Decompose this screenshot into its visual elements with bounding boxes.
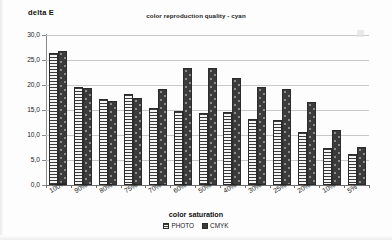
bar-cmyk	[208, 68, 217, 186]
bar-cmyk	[108, 101, 117, 186]
legend-label-photo: PHOTO	[171, 222, 194, 229]
bar-photo	[273, 120, 282, 185]
bar-photo	[248, 119, 257, 186]
bar-chart: delta E color reproduction quality - cya…	[0, 0, 392, 240]
y-axis-tick-label: 5,0	[0, 156, 40, 163]
y-axis-tick-label: 15,0	[0, 106, 40, 113]
y-axis-tick-label: 30,0	[0, 31, 40, 38]
bar-group	[99, 35, 117, 185]
bar-photo	[49, 53, 58, 185]
bar-group	[223, 35, 241, 185]
x-axis-tick-mark	[270, 185, 271, 188]
bar-photo	[323, 148, 332, 186]
bar-group	[298, 35, 316, 185]
bar-cmyk	[282, 89, 291, 186]
plot-area	[46, 35, 369, 185]
legend: PHOTO CMYK	[0, 222, 392, 229]
bar-cmyk	[232, 78, 241, 185]
y-axis-tick-label: 10,0	[0, 131, 40, 138]
bar-photo	[223, 112, 232, 185]
x-axis-title: color saturation	[0, 210, 392, 219]
bar-cmyk	[58, 51, 67, 186]
bar-photo	[99, 99, 108, 185]
y-axis-tick-label: 25,0	[0, 56, 40, 63]
bar-photo	[348, 154, 357, 186]
legend-label-cmyk: CMYK	[210, 222, 228, 229]
bar-cmyk	[357, 147, 366, 185]
bar-photo	[174, 111, 183, 185]
page-edge-bottom	[0, 235, 392, 240]
bar-photo	[74, 87, 83, 185]
bar-group	[248, 35, 266, 185]
bar-group	[174, 35, 192, 185]
bar-cmyk	[83, 88, 92, 185]
bar-group	[199, 35, 217, 185]
scan-artifact	[357, 30, 364, 37]
bar-photo	[124, 94, 133, 185]
chart-title: color reproduction quality - cyan	[0, 12, 392, 19]
bar-photo	[199, 113, 208, 185]
legend-swatch-photo-icon	[163, 223, 169, 229]
bar-group	[348, 35, 366, 185]
bar-photo	[298, 132, 307, 185]
y-axis-tick-label: 20,0	[0, 81, 40, 88]
y-axis-tick-label: 0,0	[0, 181, 40, 188]
bar-cmyk	[133, 98, 142, 186]
bar-cmyk	[158, 89, 167, 186]
bar-group	[74, 35, 92, 185]
bar-group	[49, 35, 67, 185]
bar-group	[323, 35, 341, 185]
bar-cmyk	[307, 102, 316, 186]
legend-item-photo: PHOTO	[163, 222, 194, 229]
x-axis-tick-mark	[71, 185, 72, 188]
x-axis-tick-mark	[245, 185, 246, 188]
x-axis-tick-mark	[369, 185, 370, 188]
bar-group	[149, 35, 167, 185]
bar-photo	[149, 108, 158, 186]
bar-cmyk	[183, 68, 192, 186]
x-axis-tick-mark	[96, 185, 97, 188]
bar-cmyk	[257, 87, 266, 185]
legend-swatch-cmyk-icon	[202, 223, 208, 229]
bar-group	[273, 35, 291, 185]
bar-group	[124, 35, 142, 185]
bar-cmyk	[332, 130, 341, 185]
x-axis-tick-mark	[121, 185, 122, 188]
legend-item-cmyk: CMYK	[202, 222, 228, 229]
